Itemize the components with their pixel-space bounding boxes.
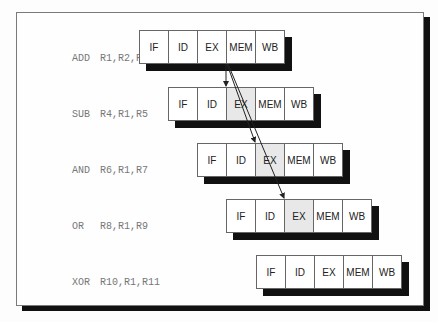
pipeline-row-xor: IF ID EX MEM WB — [256, 255, 402, 289]
stage-id: ID — [285, 255, 315, 289]
stage-wb: WB — [255, 30, 285, 64]
pipeline-row-sub: IF ID EX MEM WB — [168, 87, 314, 121]
stage-mem: MEM — [343, 255, 373, 289]
stage-ex-highlighted: EX — [226, 87, 256, 121]
instruction-label-sub: SUBR4,R1,R5 — [60, 98, 148, 120]
stage-ex: EX — [197, 30, 227, 64]
stage-id: ID — [197, 87, 227, 121]
stage-mem: MEM — [255, 87, 285, 121]
pipeline-row-or: IF ID EX MEM WB — [226, 199, 372, 233]
pipeline-row-and: IF ID EX MEM WB — [197, 143, 343, 177]
stage-if: IF — [226, 199, 256, 233]
stage-id: ID — [226, 143, 256, 177]
stage-wb: WB — [342, 199, 372, 233]
stage-if: IF — [256, 255, 286, 289]
stage-wb: WB — [284, 87, 314, 121]
stage-if: IF — [168, 87, 198, 121]
stage-if: IF — [197, 143, 227, 177]
stage-mem: MEM — [313, 199, 343, 233]
stage-id: ID — [255, 199, 285, 233]
opcode: ADD — [72, 53, 100, 64]
pipeline-row-add: IF ID EX MEM WB — [139, 30, 285, 64]
operands: R6,R1,R7 — [100, 165, 148, 176]
operands: R8,R1,R9 — [100, 221, 148, 232]
operands: R10,R1,R11 — [100, 277, 160, 288]
stage-wb: WB — [372, 255, 402, 289]
stage-ex: EX — [314, 255, 344, 289]
opcode: SUB — [72, 109, 100, 120]
stage-mem: MEM — [284, 143, 314, 177]
stage-ex-highlighted: EX — [284, 199, 314, 233]
instruction-label-xor: XORR10,R1,R11 — [60, 266, 160, 288]
stage-wb: WB — [313, 143, 343, 177]
instruction-label-or: ORR8,R1,R9 — [60, 210, 148, 232]
stage-if: IF — [139, 30, 169, 64]
opcode: OR — [72, 221, 100, 232]
stage-mem: MEM — [226, 30, 256, 64]
opcode: AND — [72, 165, 100, 176]
operands: R4,R1,R5 — [100, 109, 148, 120]
instruction-label-and: ANDR6,R1,R7 — [60, 154, 148, 176]
opcode: XOR — [72, 277, 100, 288]
stage-id: ID — [168, 30, 198, 64]
stage-ex-highlighted: EX — [255, 143, 285, 177]
instruction-label-add: ADDR1,R2,R3 — [60, 42, 148, 64]
